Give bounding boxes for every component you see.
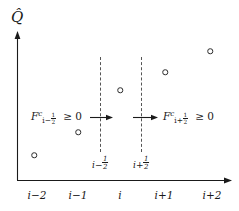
data-point-i-minus-2 (31, 152, 37, 158)
axes-and-arrows-overlay (0, 0, 239, 211)
flux-right-subscript: i+12 (174, 116, 188, 125)
y-axis-label-text: Q̂ (11, 8, 23, 26)
data-point-i-plus-2 (207, 48, 213, 54)
flux-left-sub-numerator: 1 (51, 112, 56, 119)
interface-label-i-minus-half: i−12 (92, 155, 108, 171)
x-tick-label-i-minus-1: i−1 (69, 189, 88, 201)
data-point-i-plus-1 (162, 69, 168, 75)
interface-left-op: − (95, 160, 103, 170)
x-tick-label-i-minus-2: i−2 (28, 189, 47, 201)
y-axis-arrowhead (15, 31, 21, 39)
flux-right-relation: ≥ 0 (195, 110, 214, 122)
flux-label-left: Fci−12 ≥ 0 (31, 109, 82, 125)
flux-limiter-diagram: Q̂ Fci−12 ≥ 0 Fci+12 ≥ 0 i−12 i+12 i−2 i… (0, 0, 239, 211)
data-point-i-minus-1 (75, 129, 81, 135)
interface-left-fraction: 12 (102, 155, 107, 171)
flux-left-sub-denominator: 2 (51, 119, 56, 125)
flux-right-sub-fraction: 12 (183, 112, 188, 125)
left-flux-arrowhead (106, 115, 113, 120)
right-flux-arrowhead (151, 115, 158, 120)
interface-right-denominator: 2 (143, 163, 148, 170)
x-tick-label-i: i (118, 189, 121, 201)
interface-right-fraction: 12 (143, 155, 148, 171)
x-tick-label-i-plus-1: i+1 (155, 189, 174, 201)
data-point-i (117, 87, 123, 93)
flux-left-relation: ≥ 0 (63, 110, 82, 122)
interface-left-denominator: 2 (102, 163, 107, 170)
flux-label-right: Fci+12 ≥ 0 (163, 109, 214, 125)
flux-right-sub-numerator: 1 (183, 112, 188, 119)
flux-left-sub-fraction: 12 (51, 112, 56, 125)
x-axis-arrowhead (224, 178, 232, 184)
dashed-line-i-plus-half (141, 57, 142, 152)
flux-right-sub-denominator: 2 (183, 119, 188, 125)
x-tick-label-i-plus-2: i+2 (203, 189, 222, 201)
y-axis-label: Q̂ (11, 8, 23, 26)
interface-label-i-plus-half: i+12 (133, 155, 149, 171)
flux-left-subscript: i−12 (42, 116, 56, 125)
dashed-line-i-minus-half (100, 57, 101, 152)
interface-right-op: + (136, 160, 144, 170)
